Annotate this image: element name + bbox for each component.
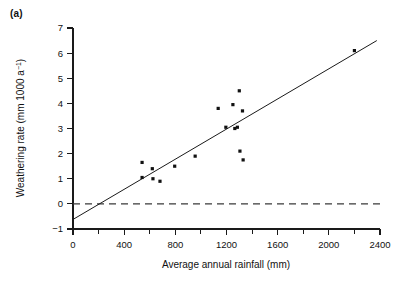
x-tick-label: 0 xyxy=(70,239,75,250)
data-point xyxy=(241,109,244,112)
y-tick-label: 4 xyxy=(58,98,63,109)
data-point xyxy=(151,167,154,170)
data-point xyxy=(217,107,220,110)
data-point xyxy=(353,49,356,52)
x-tick-label-group: 04008001200160020002400 xyxy=(70,239,390,250)
y-tick-label: 5 xyxy=(58,73,63,84)
y-tick-label: 1 xyxy=(58,173,63,184)
data-point xyxy=(224,126,227,129)
y-axis-title-main: Weathering rate (mm 1000 a xyxy=(15,70,26,198)
x-tick-label: 1600 xyxy=(267,239,288,250)
data-point xyxy=(140,161,143,164)
regression-line xyxy=(73,41,377,220)
x-tick-label: 800 xyxy=(167,239,183,250)
y-tick-label: 0 xyxy=(58,198,63,209)
data-point xyxy=(238,150,241,153)
y-tick-label: 6 xyxy=(58,48,63,59)
y-axis-title-tail: ) xyxy=(15,59,26,62)
data-point xyxy=(173,165,176,168)
data-point xyxy=(140,176,143,179)
y-tick-label-group: −101234567 xyxy=(52,22,63,234)
panel-label: (a) xyxy=(10,8,23,19)
data-point xyxy=(194,155,197,158)
y-tick-label: −1 xyxy=(52,223,63,234)
y-tick-group xyxy=(67,28,73,229)
data-point xyxy=(231,103,234,106)
y-tick-label: 7 xyxy=(58,22,63,33)
y-tick-label: 2 xyxy=(58,148,63,159)
data-point xyxy=(238,89,241,92)
x-tick-group xyxy=(73,229,380,235)
scatter-plot: −101234567 04008001200160020002400 Avera… xyxy=(0,0,405,290)
y-tick-label: 3 xyxy=(58,123,63,134)
x-tick-label: 400 xyxy=(116,239,132,250)
y-axis-title-superscript: −1 xyxy=(15,62,22,70)
data-point xyxy=(236,126,239,129)
x-tick-label: 2400 xyxy=(369,239,390,250)
x-tick-label: 2000 xyxy=(318,239,339,250)
figure-container: (a) −101234567 04008001200160020002400 A… xyxy=(0,0,405,290)
data-point xyxy=(151,177,154,180)
data-point xyxy=(242,158,245,161)
x-tick-label: 1200 xyxy=(216,239,237,250)
x-axis-title: Average annual rainfall (mm) xyxy=(162,259,290,270)
y-axis-title: Weathering rate (mm 1000 a−1) xyxy=(15,59,27,197)
data-point xyxy=(158,180,161,183)
